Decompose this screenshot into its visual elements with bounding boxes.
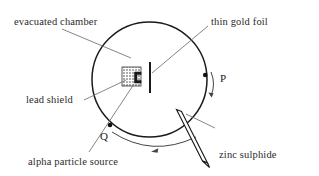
label-point-q: Q <box>100 131 108 142</box>
scattering-diagram-figure: evacuated chamber thin gold foil lead sh… <box>0 0 319 176</box>
label-zinc-sulphide-screen: zinc sulphide screen attached to microsc… <box>219 124 286 176</box>
label-evacuated-chamber: evacuated chamber <box>14 16 97 29</box>
label-point-p: P <box>220 73 226 84</box>
label-zinc-line-1: zinc sulphide <box>219 149 286 162</box>
label-thin-gold-foil: thin gold foil <box>211 16 268 29</box>
detector-arc-p-arrowhead <box>208 93 213 98</box>
detector-arc-p <box>211 72 214 96</box>
leader-thin-gold-foil <box>152 26 208 73</box>
leader-lead-shield <box>84 80 126 100</box>
detector-arc-q <box>112 132 196 146</box>
label-alpha-particle-source: alpha particle source <box>28 156 118 169</box>
leader-evacuated-chamber <box>62 29 131 58</box>
detector-arc-q-arrowhead <box>151 148 158 153</box>
label-lead-shield: lead shield <box>26 94 73 107</box>
microscope-arrow-tip <box>203 161 210 168</box>
point-p-marker <box>203 73 208 78</box>
